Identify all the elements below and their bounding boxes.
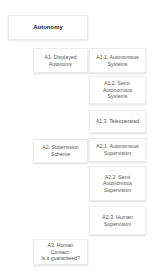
node-a2-1-autonomous-supervision[interactable]: A2.1. Autonomous Supervision — [89, 138, 146, 162]
node-a3-human-contact[interactable]: A3. Human Contact: Is it guaranteed? — [33, 239, 88, 265]
node-a2-supervision-scheme[interactable]: A2. Supervision Scheme — [33, 139, 88, 163]
node-a1-1-autonomous-systems[interactable]: A1.1. Autonomous Systems — [89, 48, 146, 73]
root-node-autonomy[interactable]: Autonomy — [8, 15, 88, 40]
node-a1-2-semi-autonomous-systems[interactable]: A1.2. Semi- Autonomous Systems — [89, 76, 146, 104]
node-a2-2-semi-autonomous-supervision[interactable]: A2.2. Semi Autonomous Supervision — [89, 166, 146, 201]
node-a1-3-teleoperated[interactable]: A1.3. Teleoperated — [89, 110, 146, 133]
node-a2-3-human-supervision[interactable]: A2.3. Human Supervision — [89, 206, 146, 235]
node-a1-displayed-autonomy[interactable]: A1. Displayed Autonomy — [33, 48, 88, 73]
